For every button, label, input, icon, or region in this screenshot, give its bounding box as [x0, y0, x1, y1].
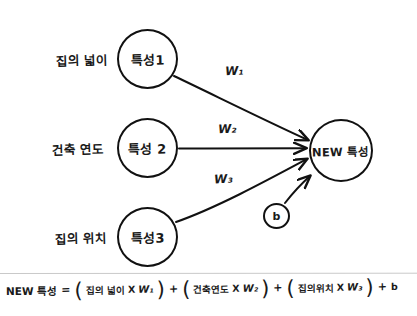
formula-plus-3: +	[378, 280, 387, 293]
node-feature-2[interactable]: 특성 2	[117, 118, 178, 178]
node-bias[interactable]: b	[263, 203, 290, 229]
formula-term-2-factor: 건축연도	[193, 281, 229, 295]
formula-plus-1: +	[169, 282, 178, 295]
formula-plus-2: +	[273, 281, 282, 294]
node-feature-2-label: 특성 2	[128, 138, 167, 158]
formula-term-2: ( 건축연도 X W₂ )	[182, 281, 269, 296]
weight-2-label: W₂	[218, 122, 237, 137]
formula-lhs: NEW 특성	[6, 283, 57, 299]
feature-1-name: 집의 넓이	[56, 49, 109, 69]
formula-term-3-times: X	[337, 282, 344, 293]
feature-2-name: 건축 연도	[52, 138, 105, 158]
formula-term-3-factor: 집의위치	[298, 280, 334, 294]
edge-bias-to-output	[285, 176, 310, 203]
feature-3-name: 집의 위치	[55, 227, 108, 247]
node-bias-label: b	[272, 210, 280, 223]
node-output-new-feature[interactable]: NEW 특성	[309, 119, 373, 182]
weight-3-label: W₃	[214, 172, 233, 187]
node-feature-3-label: 특성3	[130, 227, 164, 247]
weight-1-label: W₁	[225, 64, 244, 79]
node-output-label: NEW 특성	[312, 142, 370, 159]
formula-term-3-weight: W₃	[347, 281, 363, 292]
formula-term-1-factor: 집의 넓이	[86, 282, 125, 296]
formula-equals: =	[61, 283, 70, 296]
node-feature-1[interactable]: 특성1	[117, 29, 178, 89]
edge-feature1-to-output	[174, 76, 308, 140]
formula-bias-term: b	[391, 281, 398, 292]
diagram-canvas: 집의 넓이 건축 연도 집의 위치 특성1 특성 2 특성3 NEW 특성 b …	[0, 0, 417, 316]
node-feature-3[interactable]: 특성3	[117, 207, 178, 267]
formula-term-2-weight: W₂	[243, 282, 259, 293]
formula-term-1-times: X	[128, 284, 135, 295]
formula-term-2-times: X	[232, 283, 239, 294]
formula-term-1: ( 집의 넓이 X W₁ )	[74, 282, 165, 297]
node-feature-1-label: 특성1	[130, 49, 164, 69]
formula-term-3: ( 집의위치 X W₃ )	[286, 280, 373, 295]
formula-term-1-weight: W₁	[138, 284, 154, 295]
